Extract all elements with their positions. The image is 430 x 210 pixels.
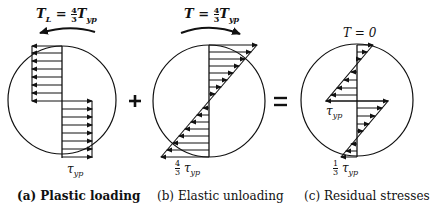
panel-a-plastic-loading	[8, 28, 116, 158]
stress-arrows-right	[62, 101, 92, 157]
panel-c-yield-stress-label: τyp	[326, 104, 342, 120]
torque-arrow-ccw-icon	[40, 28, 95, 33]
caption-b: (b) Elastic unloading	[157, 189, 284, 203]
equals-operator	[274, 98, 287, 105]
panel-c-residual-max-label: 13 τyp	[333, 160, 358, 177]
plus-operator	[129, 95, 141, 107]
stress-arrows-left	[32, 46, 62, 101]
panel-a-torque-label: TL = 43Typ	[36, 6, 97, 24]
panel-b-elastic-unloading	[153, 28, 265, 157]
panel-a-yield-stress-label: τyp	[67, 162, 83, 178]
caption-c: (c) Residual stresses	[304, 189, 430, 203]
panel-c-torque-label: T = 0	[343, 26, 376, 40]
torque-arrow-cw-icon	[181, 28, 240, 34]
caption-a: (a) Plastic loading	[17, 189, 140, 203]
panel-b-torque-label: T = 43Typ	[184, 6, 239, 24]
panel-c-residual-stresses	[301, 44, 413, 157]
panel-b-max-stress-label: 43 τyp	[175, 160, 200, 177]
